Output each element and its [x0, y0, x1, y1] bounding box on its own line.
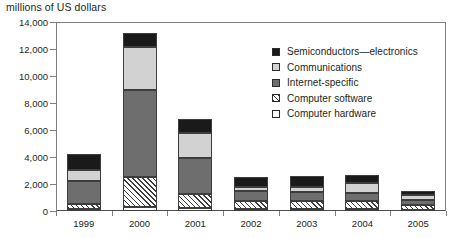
bar-segment[interactable] [401, 195, 435, 200]
legend-swatch-icon [272, 48, 280, 56]
bar-segment[interactable] [290, 187, 324, 192]
bar-segment[interactable] [67, 170, 101, 181]
bar-segment[interactable] [345, 209, 379, 211]
legend-item-label: Internet-specific [287, 77, 358, 88]
legend-item-label: Computer hardware [287, 108, 376, 119]
bar-segment[interactable] [178, 208, 212, 211]
bar-segment[interactable] [234, 209, 268, 211]
bar-segment[interactable] [345, 201, 379, 209]
bar-segment[interactable] [123, 207, 157, 211]
bar-group[interactable] [345, 175, 379, 211]
legend-item[interactable]: Semiconductors—electronics [272, 44, 418, 60]
bar-segment[interactable] [345, 175, 379, 183]
bar-segment[interactable] [401, 200, 435, 205]
bar-segment[interactable] [290, 209, 324, 211]
bar-segment[interactable] [67, 204, 101, 209]
legend-item[interactable]: Communications [272, 60, 418, 76]
bar-segment[interactable] [123, 90, 157, 177]
bar-segment[interactable] [234, 187, 268, 191]
bar-segment[interactable] [290, 176, 324, 187]
bar-segment[interactable] [67, 181, 101, 204]
bar-segment[interactable] [290, 192, 324, 201]
bar-segment[interactable] [401, 191, 435, 196]
bar-segment[interactable] [401, 205, 435, 210]
bar-segment[interactable] [67, 209, 101, 211]
legend-item-label: Semiconductors—electronics [287, 46, 418, 57]
bar-segment[interactable] [234, 201, 268, 209]
chart-container: millions of US dollars 14,00012,00010,00… [0, 0, 464, 238]
legend-swatch-icon [272, 110, 280, 118]
bar-segment[interactable] [345, 193, 379, 201]
bar-segment[interactable] [123, 33, 157, 47]
legend-item[interactable]: Internet-specific [272, 75, 418, 91]
bar-segment[interactable] [178, 133, 212, 159]
bar-group[interactable] [401, 191, 435, 211]
bar-segment[interactable] [178, 119, 212, 133]
bar-group[interactable] [178, 119, 212, 211]
bar-segment[interactable] [345, 183, 379, 193]
bar-segment[interactable] [234, 191, 268, 200]
bar-segment[interactable] [123, 47, 157, 90]
legend-item-label: Computer software [287, 93, 372, 104]
legend-swatch-icon [272, 94, 280, 102]
bar-group[interactable] [123, 33, 157, 211]
bar-segment[interactable] [123, 177, 157, 207]
bar-group[interactable] [67, 154, 101, 211]
bar-segment[interactable] [290, 201, 324, 209]
legend-item[interactable]: Computer hardware [272, 106, 418, 122]
bar-segment[interactable] [178, 158, 212, 194]
bar-segment[interactable] [178, 194, 212, 208]
legend-item[interactable]: Computer software [272, 91, 418, 107]
legend-swatch-icon [272, 79, 280, 87]
bar-segment[interactable] [234, 177, 268, 187]
bar-group[interactable] [234, 177, 268, 211]
bar-segment[interactable] [67, 154, 101, 170]
legend-item-label: Communications [287, 62, 362, 73]
legend-swatch-icon [272, 63, 280, 71]
bar-group[interactable] [290, 176, 324, 211]
chart-legend: Semiconductors—electronicsCommunications… [272, 44, 418, 122]
